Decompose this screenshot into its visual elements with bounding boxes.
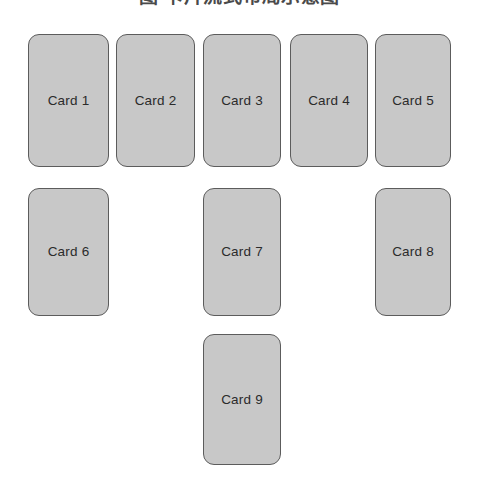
card[interactable]: Card 1 (28, 34, 109, 167)
card-label: Card 6 (48, 245, 90, 259)
card[interactable]: Card 9 (203, 334, 281, 465)
card[interactable]: Card 5 (375, 34, 451, 167)
card[interactable]: Card 2 (116, 34, 195, 167)
card-label: Card 5 (392, 94, 434, 108)
card-label: Card 8 (392, 245, 434, 259)
card[interactable]: Card 4 (290, 34, 368, 167)
card-label: Card 4 (308, 94, 350, 108)
card-label: Card 7 (221, 245, 263, 259)
diagram-root: 图 卡片流式布局示意图 Card 1Card 2Card 3Card 4Card… (0, 0, 479, 495)
card[interactable]: Card 7 (203, 188, 281, 316)
card-label: Card 9 (221, 393, 263, 407)
card-label: Card 2 (135, 94, 177, 108)
card[interactable]: Card 6 (28, 188, 109, 316)
card-grid: Card 1Card 2Card 3Card 4Card 5Card 6Card… (0, 0, 479, 495)
card[interactable]: Card 8 (375, 188, 451, 316)
card[interactable]: Card 3 (203, 34, 281, 167)
card-label: Card 3 (221, 94, 263, 108)
card-label: Card 1 (48, 94, 90, 108)
